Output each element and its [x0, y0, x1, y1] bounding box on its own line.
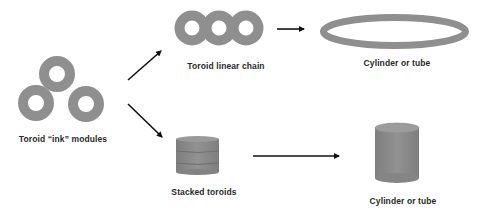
arrow-to-stack — [128, 104, 162, 137]
label-toroid-chain: Toroid linear chain — [187, 61, 264, 71]
diagram-canvas — [0, 0, 487, 214]
label-toroid-modules: Toroid “ink” modules — [19, 134, 107, 144]
toroid-modules-icon — [23, 61, 99, 117]
label-ring-tube: Cylinder or tube — [364, 58, 431, 68]
ring-tube-icon — [324, 18, 466, 46]
toroid-chain-icon — [180, 16, 259, 41]
label-solid-tube: Cylinder or tube — [370, 196, 437, 206]
cylinder-icon — [375, 123, 419, 183]
arrow-to-chain — [128, 51, 161, 80]
stacked-toroids-icon — [176, 136, 219, 175]
label-stacked-toroids: Stacked toroids — [171, 187, 236, 197]
